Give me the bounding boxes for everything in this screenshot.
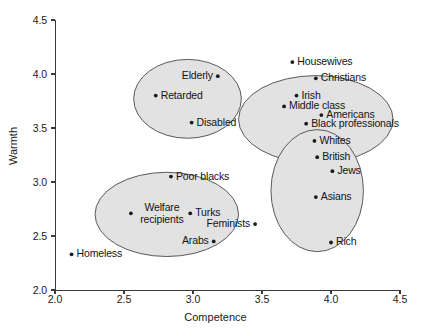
y-axis-title: Warmth (7, 111, 19, 181)
data-point-label: Jews (337, 165, 360, 177)
data-point-dot (216, 74, 220, 78)
data-point-label: Asians (321, 191, 352, 203)
data-point-dot (295, 94, 299, 98)
data-point-dot (188, 211, 192, 215)
data-point-label: Housewives (297, 56, 352, 68)
data-point-dot (70, 252, 74, 256)
data-point-label: Christians (321, 73, 366, 85)
data-point-dot (304, 122, 308, 126)
data-point-dot (129, 211, 133, 215)
data-point-dot (212, 240, 216, 244)
x-tick-label: 4.0 (324, 293, 338, 305)
y-tick-label: 4.0 (21, 68, 47, 80)
data-point-label: Elderly (182, 70, 213, 82)
plot-canvas (0, 0, 431, 332)
data-point-label: Poor blacks (176, 171, 229, 183)
scatter-plot-figure: ElderlyRetardedDisabledHousewivesChristi… (0, 0, 431, 332)
data-point-dot (282, 105, 286, 109)
data-point-dot (313, 139, 317, 143)
data-point-dot (314, 195, 318, 199)
data-point-label: Homeless (77, 249, 122, 261)
x-tick-label: 3.0 (186, 293, 200, 305)
x-tick-label: 3.5 (255, 293, 269, 305)
y-tick-label: 3.5 (21, 122, 47, 134)
data-point-label: Retarded (161, 90, 203, 102)
data-point-label: Black professionals (311, 118, 399, 130)
x-tick-label: 2.5 (117, 293, 131, 305)
data-point-dot (315, 155, 319, 159)
y-tick-label: 4.5 (21, 14, 47, 26)
data-point-dot (169, 175, 173, 179)
data-point-dot (190, 121, 194, 125)
y-tick-label: 2.5 (21, 230, 47, 242)
data-point-dot (154, 94, 158, 98)
data-point-dot (329, 241, 333, 245)
y-tick-label: 2.0 (21, 284, 47, 296)
data-point-dot (330, 169, 334, 173)
y-tick-label: 3.0 (21, 176, 47, 188)
data-point-label: Welfare recipients (136, 202, 188, 225)
data-point-label: Arabs (182, 236, 209, 248)
data-point-label: Whites (319, 135, 350, 147)
data-point-dot (290, 60, 294, 64)
data-point-label: British (322, 151, 350, 163)
data-point-dot (253, 222, 257, 226)
x-axis-title: Competence (0, 311, 431, 323)
data-point-dot (314, 76, 318, 80)
data-point-label: Rich (336, 237, 356, 249)
x-tick-label: 4.5 (393, 293, 407, 305)
data-point-label: Disabled (197, 117, 237, 129)
data-point-label: Feminists (207, 218, 251, 230)
x-tick-label: 2.0 (48, 293, 62, 305)
